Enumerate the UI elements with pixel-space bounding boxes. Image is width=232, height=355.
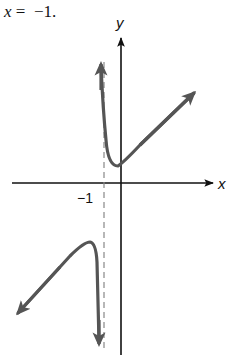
- curve-right-branch: [101, 66, 194, 166]
- tick-label-neg1: −1: [77, 190, 93, 206]
- graph: x y −1: [0, 0, 232, 355]
- curve-left-branch: [18, 242, 99, 342]
- x-axis-label: x: [217, 175, 226, 192]
- y-axis-label: y: [115, 14, 125, 31]
